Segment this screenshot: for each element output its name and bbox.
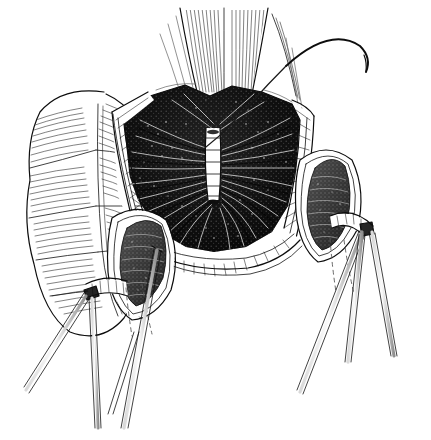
surgical-illustration-figure: Opened bowel segment with everted wall f… (0, 0, 431, 440)
illustration-canvas: Opened bowel segment with everted wall f… (0, 0, 431, 440)
